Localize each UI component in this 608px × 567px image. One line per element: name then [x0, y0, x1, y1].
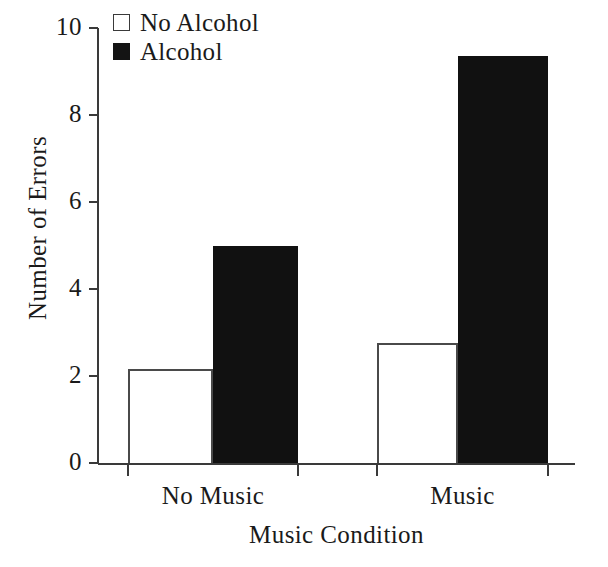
y-axis-tick: [89, 27, 98, 29]
legend-item-no-alcohol: No Alcohol: [113, 8, 259, 37]
x-axis-title: Music Condition: [98, 521, 575, 549]
y-axis-tick: [89, 114, 98, 116]
y-axis-tick: [89, 201, 98, 203]
x-axis-tick: [376, 465, 378, 476]
chart-legend: No Alcohol Alcohol: [113, 8, 259, 66]
legend-item-alcohol: Alcohol: [113, 37, 259, 66]
legend-label-alcohol: Alcohol: [140, 38, 223, 65]
legend-swatch-filled-square-icon: [113, 43, 130, 60]
legend-swatch-open-square-icon: [113, 14, 130, 31]
x-axis-tick-label: No Music: [103, 482, 323, 510]
x-axis-tick: [297, 465, 299, 476]
x-axis-line: [98, 463, 575, 465]
y-axis-tick: [89, 462, 98, 464]
bar-chart-figure: No Alcohol Alcohol 0246810 No MusicMusic…: [0, 0, 608, 567]
bar-music-alcohol: [458, 56, 548, 463]
x-axis-tick-label: Music: [353, 482, 573, 510]
y-axis-line: [97, 28, 99, 464]
bar-no-music-alcohol: [213, 246, 298, 464]
y-axis-tick-label: 0: [30, 449, 82, 474]
y-axis-tick-label: 10: [30, 14, 82, 39]
legend-label-no-alcohol: No Alcohol: [140, 9, 259, 36]
y-axis-title: Number of Errors: [25, 78, 51, 378]
x-axis-tick: [127, 465, 129, 476]
bar-no-music-no-alcohol: [128, 369, 213, 463]
y-axis-tick: [89, 288, 98, 290]
bar-music-no-alcohol: [377, 343, 458, 463]
x-axis-tick: [547, 465, 549, 476]
y-axis-tick: [89, 375, 98, 377]
